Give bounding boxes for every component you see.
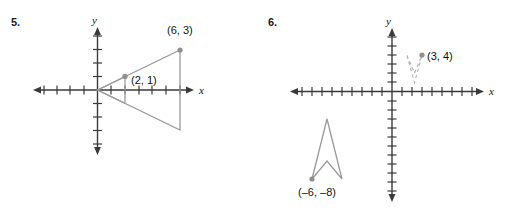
point-6-3	[177, 47, 182, 52]
y-axis-label: y	[385, 15, 391, 27]
point-2-1	[122, 74, 127, 79]
x-axis	[290, 87, 484, 96]
label-neg6-neg8: (–6, –8)	[298, 186, 336, 198]
x-axis-label: x	[488, 85, 494, 97]
label-6-3: (6, 3)	[167, 24, 193, 36]
problem-5-graph: x y (6, 3) (2, 1)	[0, 0, 253, 212]
y-axis	[388, 28, 397, 202]
x-axis-label: x	[198, 84, 204, 96]
label-3-4: (3, 4)	[427, 50, 453, 62]
label-2-1: (2, 1)	[131, 74, 157, 86]
image-arrow-dashed	[407, 56, 422, 83]
problem-6: 6.	[253, 0, 506, 212]
y-axis-label: y	[91, 14, 97, 26]
problem-6-graph: x y (3, 4) (–6, –8)	[253, 0, 506, 212]
problem-5: 5.	[0, 0, 253, 212]
x-axis	[33, 86, 194, 95]
point-3-4	[419, 52, 424, 57]
worksheet-page: 5.	[0, 0, 506, 212]
preimage-arrow-solid	[312, 119, 342, 179]
point-neg6-neg8	[309, 176, 314, 181]
